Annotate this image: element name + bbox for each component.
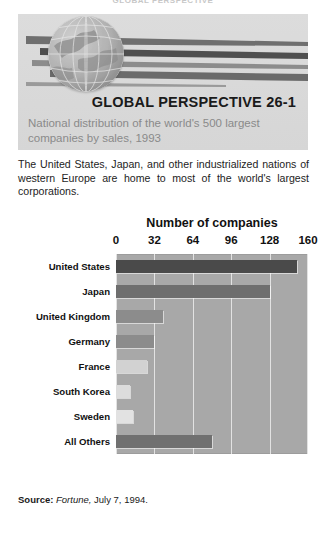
globe-icon: [48, 16, 124, 92]
bar-united-kingdom: [116, 310, 163, 323]
x-tick-96: 96: [225, 234, 238, 246]
category-label-france: France: [18, 361, 110, 372]
bar-row: [116, 260, 308, 273]
chart-title: Number of companies: [116, 216, 308, 230]
source-publication: Fortune,: [56, 494, 91, 505]
bar-row: [116, 435, 308, 448]
bar-chart: Number of companies 0326496128160 United…: [18, 216, 308, 478]
x-tick-0: 0: [113, 234, 119, 246]
bar-row: [116, 310, 308, 323]
source-label: Source:: [18, 494, 53, 505]
source-date: July 7, 1994.: [94, 494, 148, 505]
bar-rows: [116, 254, 308, 454]
category-label-japan: Japan: [18, 286, 110, 297]
bar-row: [116, 360, 308, 373]
bar-all-others: [116, 435, 212, 448]
page-subtitle: National distribution of the world's 500…: [28, 116, 294, 146]
bar-row: [116, 385, 308, 398]
category-label-germany: Germany: [18, 336, 110, 347]
bar-south-korea: [116, 385, 130, 398]
bar-france: [116, 360, 147, 373]
source-note: Source: Fortune, July 7, 1994.: [18, 494, 148, 505]
bar-row: [116, 410, 308, 423]
bar-united-states: [116, 260, 297, 273]
category-label-united-states: United States: [18, 261, 110, 272]
x-tick-64: 64: [186, 234, 199, 246]
running-head: GLOBAL PERSPECTIVE: [0, 0, 326, 3]
category-label-south-korea: South Korea: [18, 386, 110, 397]
plot-area: [116, 254, 308, 454]
bar-japan: [116, 285, 270, 298]
x-axis-tick-labels: 0326496128160: [116, 234, 308, 249]
category-label-united-kingdom: United Kingdom: [18, 311, 110, 322]
bar-row: [116, 285, 308, 298]
bar-sweden: [116, 410, 133, 423]
category-labels: United StatesJapanUnited KingdomGermanyF…: [18, 254, 110, 454]
header-band: GLOBAL PERSPECTIVE 26-1 National distrib…: [18, 14, 308, 150]
body-paragraph: The United States, Japan, and other indu…: [18, 158, 309, 199]
category-label-all-others: All Others: [18, 436, 110, 447]
x-tick-32: 32: [148, 234, 161, 246]
bar-row: [116, 335, 308, 348]
x-tick-160: 160: [298, 234, 317, 246]
page-title: GLOBAL PERSPECTIVE 26-1: [18, 94, 296, 110]
category-label-sweden: Sweden: [18, 411, 110, 422]
bar-germany: [116, 335, 154, 348]
x-tick-128: 128: [260, 234, 279, 246]
